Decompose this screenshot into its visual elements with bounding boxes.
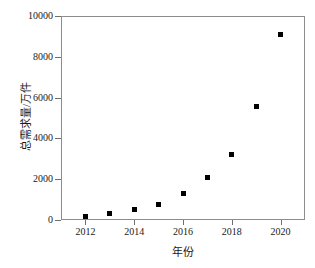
x-axis-tick-label: 2016 (160, 226, 206, 238)
data-point (181, 191, 186, 196)
y-axis-tick-label: 10000 (3, 11, 53, 21)
data-point (132, 207, 137, 212)
y-axis-tick (55, 179, 61, 180)
y-axis-tick (55, 98, 61, 99)
data-point (83, 214, 88, 219)
x-axis-tick-label: 2014 (111, 226, 157, 238)
x-axis-tick (281, 220, 282, 225)
y-axis-tick (55, 57, 61, 58)
y-axis-tick-label: 6000 (3, 93, 53, 103)
chart-figure: 总需求量/万件 10000 8000 6000 4000 2000 0 2012… (0, 0, 315, 268)
y-axis-tick (55, 16, 61, 17)
x-axis-tick (134, 220, 135, 225)
x-axis-title: 年份 (60, 243, 306, 259)
data-point (107, 211, 112, 216)
data-point (229, 152, 234, 157)
data-point (205, 175, 210, 180)
y-axis-tick-label: 8000 (3, 52, 53, 62)
x-axis-tick (85, 220, 86, 225)
y-axis-tick-label: 2000 (3, 174, 53, 184)
x-axis-tick-label: 2012 (62, 226, 108, 238)
x-axis-tick (232, 220, 233, 225)
x-axis-tick-label: 2020 (258, 226, 304, 238)
x-axis-tick (183, 220, 184, 225)
y-axis-tick-label: 4000 (3, 133, 53, 143)
x-axis-tick-label: 2018 (209, 226, 255, 238)
y-axis-tick (55, 220, 61, 221)
data-point (156, 202, 161, 207)
y-axis-title: 总需求量/万件 (18, 9, 34, 224)
y-axis-tick (55, 138, 61, 139)
data-point (254, 104, 259, 109)
plot-area (61, 16, 305, 220)
data-point (278, 32, 283, 37)
y-axis-tick-label: 0 (3, 215, 53, 225)
